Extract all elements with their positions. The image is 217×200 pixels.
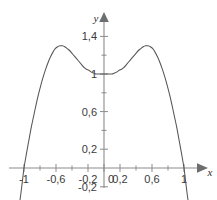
x-axis-tick-labels: -1-0,6-0,200,20,61 xyxy=(19,173,187,185)
x-axis-arrowhead xyxy=(197,163,208,173)
x-tick-label--0_6: -0,6 xyxy=(47,173,66,185)
y-tick-label-1_4: 1,4 xyxy=(82,30,97,42)
x-axis-label: x xyxy=(207,166,213,178)
y-tick-label-0_2: 0,2 xyxy=(82,143,97,155)
y-tick-label-neg0_2: -0,2 xyxy=(78,181,97,193)
x-tick-label-0_2: 0,2 xyxy=(112,173,127,185)
axes-group xyxy=(9,12,208,188)
function-plot-figure: -1-0,6-0,200,20,61 -0,20,20,611,4 x y xyxy=(0,0,217,200)
x-tick-label--1: -1 xyxy=(19,173,29,185)
y-axis-label: y xyxy=(93,12,99,24)
y-axis-arrowhead xyxy=(99,12,109,22)
x-tick-label-0_6: 0,6 xyxy=(144,173,159,185)
chart-svg: -1-0,6-0,200,20,61 -0,20,20,611,4 x y xyxy=(0,0,217,200)
y-tick-label-0_6: 0,6 xyxy=(82,106,97,118)
